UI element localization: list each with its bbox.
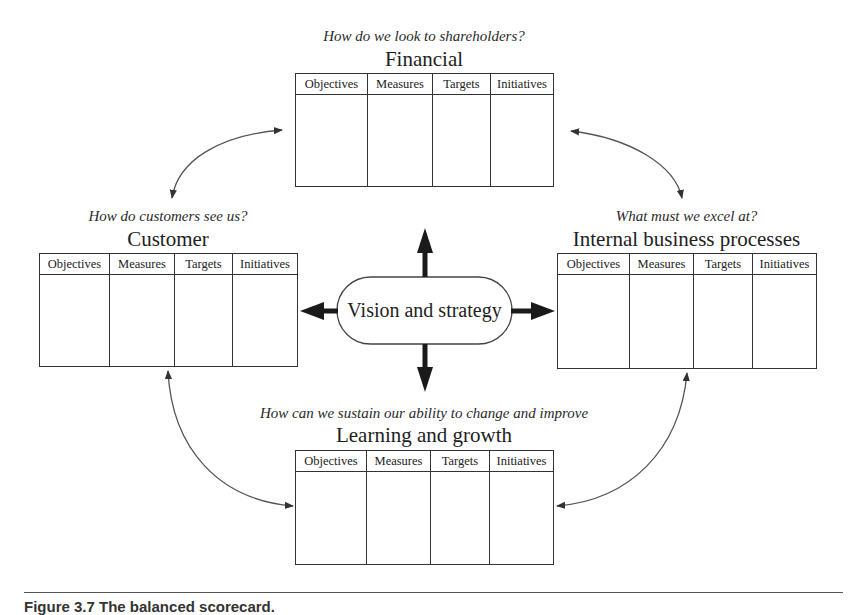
bold-arrow-down [417,344,433,392]
customer-question: How do customers see us? [39,208,297,225]
cell-objectives [296,472,367,565]
bold-arrow-left [300,302,338,320]
financial-table: Objectives Measures Targets Initiatives [295,73,554,187]
cell-targets [431,472,490,565]
internal-learning-arrow [557,373,687,506]
header-measures: Measures [367,451,431,472]
header-objectives: Objectives [558,254,630,275]
cell-measures [367,472,431,565]
header-initiatives: Initiatives [233,254,298,275]
learning-table: Objectives Measures Targets Initiatives [295,450,554,565]
header-targets: Targets [431,451,490,472]
financial-question: How do we look to shareholders? [295,28,553,45]
caption-divider [24,592,843,593]
perspective-customer: How do customers see us? Customer Object… [39,208,297,368]
cell-objectives [40,275,110,367]
cell-targets [175,275,233,367]
vision-and-strategy-label: Vision and strategy [337,277,512,344]
bold-arrow-up [417,228,433,277]
financial-title: Financial [295,47,553,72]
internal-question: What must we excel at? [557,208,816,225]
cell-initiatives [490,472,554,565]
cell-measures [110,275,175,367]
header-targets: Targets [175,254,233,275]
customer-learning-arrow [168,371,293,506]
customer-table: Objectives Measures Targets Initiatives [39,253,298,367]
cell-objectives [296,95,368,187]
learning-title: Learning and growth [295,423,553,448]
header-measures: Measures [630,254,694,275]
header-initiatives: Initiatives [491,74,554,95]
perspective-financial: How do we look to shareholders? Financia… [295,28,553,188]
cell-targets [694,275,753,369]
internal-table: Objectives Measures Targets Initiatives [557,253,817,369]
header-targets: Targets [433,74,491,95]
cell-initiatives [491,95,554,187]
cell-targets [433,95,491,187]
header-objectives: Objectives [296,74,368,95]
figure-caption: Figure 3.7 The balanced scorecard. [24,598,275,615]
header-measures: Measures [110,254,175,275]
cell-measures [368,95,433,187]
financial-internal-arrow [571,131,682,198]
header-measures: Measures [368,74,433,95]
perspective-internal: What must we excel at? Internal business… [557,208,816,370]
perspective-learning: How can we sustain our ability to change… [295,405,553,566]
header-objectives: Objectives [296,451,367,472]
cell-initiatives [233,275,298,367]
header-objectives: Objectives [40,254,110,275]
cell-objectives [558,275,630,369]
header-initiatives: Initiatives [753,254,817,275]
learning-question: How can we sustain our ability to change… [195,405,653,422]
cell-initiatives [753,275,817,369]
header-initiatives: Initiatives [490,451,554,472]
header-targets: Targets [694,254,753,275]
customer-title: Customer [39,227,297,252]
internal-title: Internal business processes [557,227,816,252]
bold-arrow-right [511,302,555,320]
financial-customer-arrow [172,130,282,198]
cell-measures [630,275,694,369]
